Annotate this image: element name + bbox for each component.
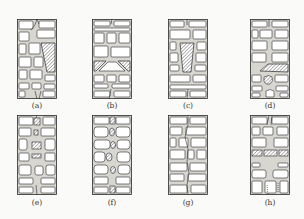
panel-d [250, 19, 290, 99]
panel-label-g: (g) [168, 198, 208, 207]
panel-label-d: (d) [250, 101, 290, 110]
panel-label-e: (e) [17, 198, 57, 207]
masonry-wall-f [92, 115, 132, 195]
panel-h [250, 115, 290, 195]
panel-b [92, 19, 132, 99]
panel-label-c: (c) [168, 101, 208, 110]
masonry-wall-h [250, 115, 290, 195]
panel-label-h: (h) [250, 198, 290, 207]
panel-label-f: (f) [92, 198, 132, 207]
panel-f [92, 115, 132, 195]
panel-label-a: (a) [17, 101, 57, 110]
masonry-wall-b [92, 19, 132, 99]
panel-e [17, 115, 57, 195]
masonry-wall-d [250, 19, 290, 99]
panel-c [168, 19, 208, 99]
masonry-wall-e [17, 115, 57, 195]
panel-a [17, 19, 57, 99]
masonry-wall-a [17, 19, 57, 99]
masonry-wall-c [168, 19, 208, 99]
panel-label-b: (b) [92, 101, 132, 110]
panel-g [168, 115, 208, 195]
masonry-wall-g [168, 115, 208, 195]
